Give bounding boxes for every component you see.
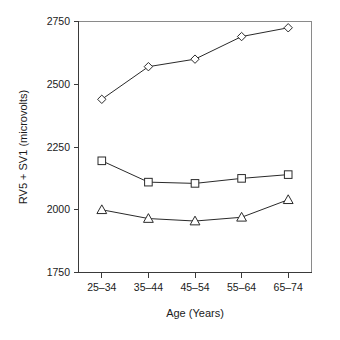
data-point-square-3 bbox=[238, 175, 246, 183]
data-point-square-0 bbox=[98, 157, 106, 165]
x-axis-ticks bbox=[102, 273, 288, 278]
x-tick-label-4: 65–74 bbox=[274, 281, 303, 293]
y-axis-ticks bbox=[74, 22, 79, 273]
data-point-diamond-0 bbox=[98, 95, 106, 103]
y-tick-label-3: 2500 bbox=[47, 78, 71, 90]
x-axis-tick-labels: 25–34 35–44 45–54 55–64 65–74 bbox=[87, 281, 303, 293]
x-tick-label-0: 25–34 bbox=[87, 281, 116, 293]
y-tick-label-0: 1750 bbox=[47, 266, 71, 278]
data-point-square-1 bbox=[145, 178, 153, 186]
y-axis-tick-labels: 2750 2500 2250 2000 1750 bbox=[47, 15, 71, 278]
y-tick-label-4: 2750 bbox=[47, 15, 71, 27]
data-point-triangle-0 bbox=[97, 205, 107, 214]
x-axis-title: Age (Years) bbox=[166, 307, 224, 319]
series-diamond bbox=[98, 24, 293, 104]
data-point-diamond-3 bbox=[237, 32, 245, 40]
data-series-layer bbox=[97, 24, 293, 225]
data-point-square-2 bbox=[191, 180, 199, 188]
data-point-triangle-4 bbox=[283, 195, 293, 204]
y-axis-title: RV5 + SV1 (microvolts) bbox=[17, 90, 29, 204]
y-tick-label-1: 2000 bbox=[47, 203, 71, 215]
data-point-diamond-1 bbox=[144, 62, 152, 70]
data-point-diamond-2 bbox=[191, 55, 199, 63]
x-tick-label-2: 45–54 bbox=[180, 281, 209, 293]
chart-container: 2750 2500 2250 2000 1750 25–34 35–44 45–… bbox=[0, 0, 340, 340]
line-chart: 2750 2500 2250 2000 1750 25–34 35–44 45–… bbox=[0, 0, 340, 340]
x-tick-label-3: 55–64 bbox=[227, 281, 256, 293]
series-triangle bbox=[97, 195, 293, 225]
x-tick-label-1: 35–44 bbox=[134, 281, 163, 293]
data-point-diamond-4 bbox=[284, 24, 292, 32]
y-tick-label-2: 2250 bbox=[47, 141, 71, 153]
data-point-square-4 bbox=[284, 171, 292, 179]
series-square bbox=[98, 157, 292, 187]
data-point-triangle-3 bbox=[237, 212, 247, 221]
